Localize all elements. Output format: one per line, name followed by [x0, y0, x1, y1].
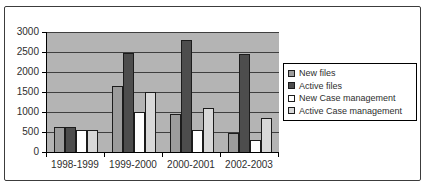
bar-new-case-management-2002-2003 [250, 140, 261, 152]
x-tick-mark-0 [46, 153, 47, 157]
x-tick-mark-4 [278, 153, 279, 157]
legend-item-active-case-management: Active Case management [288, 106, 412, 116]
legend-swatch-icon [288, 107, 295, 114]
x-tick-label-1999-2000: 1999-2000 [104, 159, 162, 170]
bar-new-files-2000-2001 [170, 114, 181, 152]
x-tick-mark-1 [104, 153, 105, 157]
legend-label: New Case management [299, 93, 396, 103]
gridline-3000 [47, 32, 279, 33]
legend-item-new-files: New files [288, 68, 412, 78]
bar-active-case-management-2000-2001 [203, 108, 214, 152]
chart-frame: 050010001500200025003000 1998-19991999-2… [4, 6, 421, 181]
y-tick-label-1500: 1500 [5, 87, 39, 97]
bar-new-case-management-1999-2000 [134, 112, 145, 152]
plot-area [46, 32, 279, 153]
bar-active-case-management-1999-2000 [145, 92, 156, 152]
bar-new-files-2002-2003 [228, 133, 239, 152]
y-tick-label-1000: 1000 [5, 107, 39, 117]
legend-swatch-icon [288, 95, 295, 102]
legend-swatch-icon [288, 82, 295, 89]
legend-label: New files [299, 68, 336, 78]
bar-new-case-management-2000-2001 [192, 130, 203, 152]
legend-swatch-icon [288, 70, 295, 77]
bar-new-case-management-1998-1999 [76, 130, 87, 152]
y-tick-label-2500: 2500 [5, 47, 39, 57]
y-tick-label-500: 500 [5, 127, 39, 137]
bar-active-files-1999-2000 [123, 53, 134, 152]
bar-active-case-management-1998-1999 [87, 130, 98, 152]
legend-label: Active files [299, 81, 342, 91]
bar-new-files-1999-2000 [112, 86, 123, 152]
legend: New filesActive filesNew Case management… [283, 63, 417, 121]
legend-item-active-files: Active files [288, 81, 412, 91]
bar-active-case-management-2002-2003 [261, 118, 272, 152]
bar-new-files-1998-1999 [54, 127, 65, 152]
y-tick-label-3000: 3000 [5, 27, 39, 37]
x-tick-label-2000-2001: 2000-2001 [162, 159, 220, 170]
bar-active-files-2002-2003 [239, 54, 250, 152]
y-tick-label-0: 0 [5, 147, 39, 157]
x-tick-label-2002-2003: 2002-2003 [220, 159, 278, 170]
legend-item-new-case-management: New Case management [288, 93, 412, 103]
x-tick-mark-3 [220, 153, 221, 157]
x-tick-mark-2 [162, 153, 163, 157]
bar-active-files-2000-2001 [181, 40, 192, 152]
y-tick-label-2000: 2000 [5, 67, 39, 77]
gridline-2500 [47, 52, 279, 53]
legend-label: Active Case management [299, 106, 402, 116]
bar-active-files-1998-1999 [65, 127, 76, 152]
x-tick-label-1998-1999: 1998-1999 [46, 159, 104, 170]
